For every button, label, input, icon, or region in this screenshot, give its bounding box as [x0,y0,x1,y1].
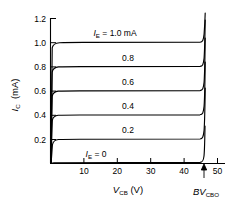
y-axis-title-unit: (mA) [9,79,20,100]
curve-label-value-bottom: = 0 [94,149,106,159]
y-axis-title: IC (mA) [9,79,21,112]
x-axis-title-sub: CB [119,189,128,196]
y-tick-label-1-2: 1.2 [34,14,46,24]
breakdown-label-sub: CBO [206,191,220,198]
x-axis-title: VCB (V) [113,184,143,196]
y-tick-label-1-0: 1.0 [34,38,46,48]
y-tick-label-0-2: 0.2 [34,135,46,145]
x-tick-label-30: 30 [146,166,156,176]
figure-container: 1.2 1.0 0.8 0.6 0.4 0.2 10 20 30 40 50 I… [0,0,238,218]
curve-label-ie-0: IE = 0 [86,149,107,160]
x-tick-label-40: 40 [179,166,189,176]
y-tick-label-0-4: 0.4 [34,110,46,120]
x-tick-label-50: 50 [213,166,223,176]
x-tick-label-20: 20 [113,166,123,176]
curve-label-ie-0-6: 0.6 [122,77,134,87]
curve-label-ie-0-8: 0.8 [122,53,134,63]
curve-ie-0-8 [51,20,205,164]
chart-plot: 1.2 1.0 0.8 0.6 0.4 0.2 10 20 30 40 50 I… [0,0,238,218]
breakdown-voltage-label: BVCBO [193,186,219,198]
x-tick-label-10: 10 [79,166,89,176]
curve-label-ie-0-4: 0.4 [122,101,134,111]
y-tick-label-0-8: 0.8 [34,62,46,72]
x-axis-title-unit: (V) [130,184,143,195]
y-tick-label-0-6: 0.6 [34,86,46,96]
breakdown-arrow-icon [201,164,206,178]
curve-label-ie-1-0: IE = 1.0 mA [93,28,136,39]
svg-text:IC (mA): IC (mA) [9,79,21,112]
curve-label-value-top: = 1.0 mA [102,28,137,38]
curve-label-ie-0-2: 0.2 [122,125,134,135]
